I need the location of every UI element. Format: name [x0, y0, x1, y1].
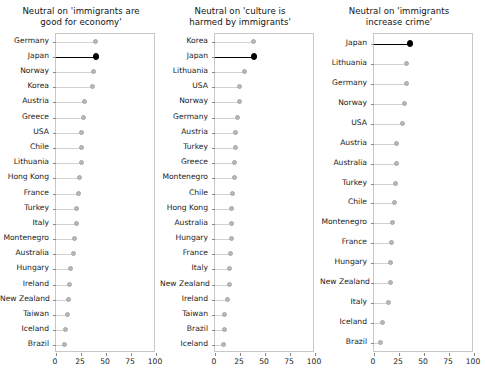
y-tick	[371, 84, 374, 85]
data-point[interactable]	[242, 69, 247, 74]
y-tick	[53, 102, 56, 103]
data-point[interactable]	[404, 81, 409, 86]
y-tick	[371, 223, 374, 224]
chart-panel-1: Neutral on 'immigrants are good for econ…	[0, 0, 160, 382]
data-point[interactable]	[66, 297, 71, 302]
data-point[interactable]	[230, 191, 235, 196]
data-point[interactable]	[63, 327, 68, 332]
data-point[interactable]	[81, 115, 86, 120]
y-tick	[53, 269, 56, 270]
y-axis-label: France	[160, 249, 208, 257]
stem-line	[56, 87, 92, 88]
data-point[interactable]	[400, 121, 405, 126]
data-point[interactable]	[388, 280, 393, 285]
stem-line	[215, 102, 239, 103]
data-point[interactable]	[62, 342, 67, 347]
y-tick	[371, 44, 374, 45]
data-point[interactable]	[77, 175, 82, 180]
y-tick	[212, 72, 215, 73]
stem-line	[374, 64, 406, 65]
data-point[interactable]	[232, 160, 237, 165]
data-point[interactable]	[67, 282, 72, 287]
data-point[interactable]	[378, 340, 383, 345]
x-tick-label: 25	[234, 357, 244, 366]
x-tick	[106, 353, 107, 356]
y-tick	[53, 345, 56, 346]
data-point[interactable]	[90, 84, 95, 89]
x-tick	[265, 353, 266, 356]
data-point-highlighted[interactable]	[93, 53, 100, 60]
y-tick	[53, 315, 56, 316]
y-tick	[371, 104, 374, 105]
data-point[interactable]	[79, 145, 84, 150]
x-tick	[131, 353, 132, 356]
data-point[interactable]	[237, 99, 242, 104]
y-axis-label: Taiwan	[160, 310, 208, 318]
data-point[interactable]	[91, 69, 96, 74]
data-point[interactable]	[394, 141, 399, 146]
data-point[interactable]	[221, 342, 226, 347]
data-point[interactable]	[390, 220, 395, 225]
data-point[interactable]	[71, 251, 76, 256]
y-axis-label: New Zealand	[160, 280, 208, 288]
data-point[interactable]	[389, 240, 394, 245]
data-point[interactable]	[227, 266, 232, 271]
stem-line	[56, 194, 78, 195]
data-point[interactable]	[222, 327, 227, 332]
data-point-highlighted[interactable]	[251, 53, 258, 60]
data-point[interactable]	[82, 99, 87, 104]
data-point[interactable]	[251, 39, 256, 44]
data-point[interactable]	[225, 297, 230, 302]
data-point[interactable]	[79, 160, 84, 165]
data-point[interactable]	[65, 312, 70, 317]
data-point[interactable]	[233, 130, 238, 135]
y-axis-label: Hong Kong	[0, 173, 49, 181]
y-tick	[371, 323, 374, 324]
y-tick	[371, 303, 374, 304]
y-axis-label: Montenegro	[320, 218, 367, 226]
data-point[interactable]	[229, 236, 234, 241]
y-axis-label: Montenegro	[160, 173, 208, 181]
y-tick	[53, 57, 56, 58]
data-point[interactable]	[93, 39, 98, 44]
data-point[interactable]	[233, 145, 238, 150]
data-point[interactable]	[392, 200, 397, 205]
data-point[interactable]	[237, 84, 242, 89]
data-point[interactable]	[79, 130, 84, 135]
data-point[interactable]	[74, 221, 79, 226]
x-tick-label: 50	[418, 357, 428, 366]
data-point[interactable]	[68, 266, 73, 271]
y-tick	[212, 118, 215, 119]
y-tick	[53, 72, 56, 73]
y-tick	[212, 178, 215, 179]
data-point[interactable]	[74, 206, 79, 211]
data-point[interactable]	[227, 282, 232, 287]
data-point[interactable]	[229, 221, 234, 226]
y-axis-label: Brazil	[0, 340, 49, 348]
data-point[interactable]	[232, 175, 237, 180]
y-tick	[212, 194, 215, 195]
data-point[interactable]	[402, 101, 407, 106]
stem-line	[374, 44, 410, 45]
y-axis-label: Iceland	[320, 318, 367, 326]
data-point[interactable]	[72, 236, 77, 241]
data-point[interactable]	[235, 115, 240, 120]
data-point[interactable]	[386, 300, 391, 305]
data-point[interactable]	[222, 312, 227, 317]
y-tick	[212, 133, 215, 134]
y-axis-label: Norway	[320, 99, 367, 107]
y-tick	[212, 209, 215, 210]
data-point-highlighted[interactable]	[407, 40, 414, 47]
data-point[interactable]	[393, 181, 398, 186]
data-point[interactable]	[76, 191, 81, 196]
y-tick	[371, 243, 374, 244]
data-point[interactable]	[228, 251, 233, 256]
data-point[interactable]	[394, 161, 399, 166]
y-axis-label: Italy	[160, 264, 208, 272]
data-point[interactable]	[380, 320, 385, 325]
data-point[interactable]	[404, 61, 409, 66]
stem-line	[56, 148, 81, 149]
data-point[interactable]	[229, 206, 234, 211]
data-point[interactable]	[388, 260, 393, 265]
x-tick	[399, 353, 400, 356]
